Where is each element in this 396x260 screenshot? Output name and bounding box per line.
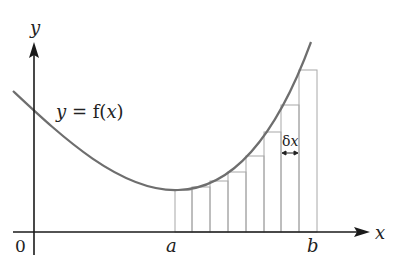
rectangle (299, 70, 317, 232)
y-axis-label: y (29, 17, 41, 38)
x-axis-label: x (375, 222, 385, 243)
b-label: b (307, 235, 319, 256)
rectangle (210, 181, 228, 232)
rectangle (246, 156, 264, 232)
riemann-diagram: y x 0 a b y = f(x) δx (0, 0, 396, 260)
delta-x-label: δx (282, 133, 298, 149)
a-label: a (166, 235, 177, 256)
origin-label: 0 (15, 236, 26, 256)
rectangle (281, 105, 299, 232)
rectangle (264, 132, 281, 232)
rectangle (228, 172, 246, 232)
rectangle (192, 187, 210, 232)
rectangle (175, 190, 192, 232)
riemann-rectangles (175, 70, 317, 232)
curve-equation-label: y = f(x) (55, 101, 124, 122)
delta-x-arrow-icon (282, 151, 298, 155)
